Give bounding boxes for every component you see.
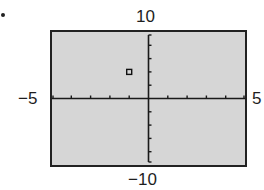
y-max-label: 10	[136, 8, 155, 25]
data-point-marker	[127, 69, 132, 74]
x-min-label: −5	[18, 90, 37, 107]
plot-area	[0, 0, 264, 190]
x-max-label: 5	[252, 90, 261, 107]
y-min-label: −10	[128, 171, 157, 188]
